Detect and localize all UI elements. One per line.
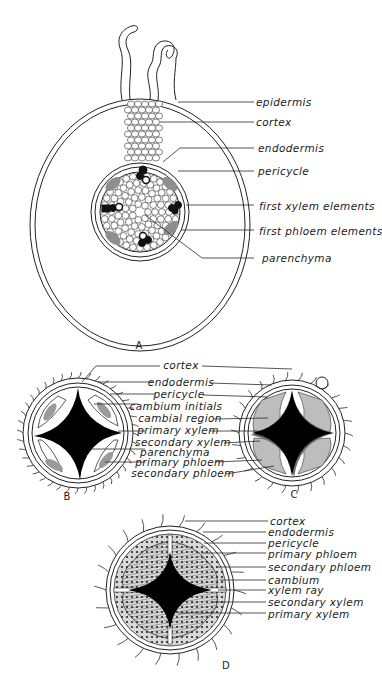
parenchyma-cell — [150, 202, 157, 209]
parenchyma-cell — [157, 179, 164, 186]
cortex-cell — [145, 107, 152, 113]
cortex-cell — [141, 113, 148, 119]
parenchyma-cell — [130, 244, 137, 251]
panel-letter-c: C — [291, 489, 298, 500]
cortex-cell — [148, 101, 155, 107]
surface-spine — [135, 648, 143, 657]
parenchyma-cell — [129, 212, 136, 219]
surface-spine — [61, 374, 63, 381]
parenchyma-cell — [150, 175, 157, 182]
surface-spine — [273, 375, 274, 383]
panel-d: D cortex endodermis pericycle primary ph… — [94, 514, 371, 671]
label-endodermis: endodermis — [258, 142, 324, 154]
c-bulge — [316, 377, 328, 389]
parenchyma-cell — [103, 222, 110, 229]
surface-spine — [21, 411, 26, 416]
parenchyma-cell — [126, 181, 133, 188]
surface-spine — [94, 586, 106, 590]
surface-spine — [212, 535, 223, 542]
cortex-cell — [138, 131, 145, 137]
surface-spine — [322, 477, 324, 485]
root-hair — [148, 41, 174, 100]
label-parenchyma: parenchyma — [261, 252, 332, 264]
parenchyma-cell — [131, 195, 138, 202]
surface-spine — [343, 420, 351, 421]
surface-spine — [260, 381, 262, 389]
cortex-cell — [127, 125, 134, 131]
xylem-pole-bottom — [139, 233, 152, 247]
label-secondary-phloem-d: secondary phloem — [268, 561, 372, 573]
cortex-cell — [155, 101, 162, 107]
surface-spine — [45, 382, 47, 389]
parenchyma-cell — [145, 221, 152, 228]
cortex-cell — [127, 137, 134, 143]
surface-spine — [231, 430, 239, 433]
label-pericycle: pericycle — [257, 165, 309, 177]
panel-b: B — [17, 372, 139, 502]
surface-spine — [95, 376, 100, 381]
cortex-cell — [131, 155, 138, 161]
surface-spine — [25, 403, 29, 408]
cortex-cell — [145, 131, 152, 137]
label-primary-phloem-d: primary phloem — [267, 548, 357, 560]
parenchyma-cell — [158, 189, 165, 196]
parenchyma-cell — [170, 195, 177, 202]
cortex-cell — [124, 119, 131, 125]
cortex-cell — [152, 131, 159, 137]
cortex-cell — [152, 119, 159, 125]
surface-spine — [56, 485, 61, 490]
parenchyma-cell — [128, 229, 135, 236]
label-primary-xylem-d: primary xylem — [267, 608, 350, 620]
surface-spine — [94, 485, 96, 492]
surface-spine — [161, 514, 163, 526]
surface-spine — [286, 372, 288, 380]
panel-letter-d: D — [222, 660, 230, 671]
surface-spine — [332, 468, 336, 476]
parenchyma-cell — [162, 234, 169, 241]
root-hair — [119, 26, 138, 100]
cortex-cell — [141, 125, 148, 131]
cortex-cell — [148, 113, 155, 119]
cortex-cell — [134, 137, 141, 143]
surface-spine — [298, 373, 302, 380]
surface-spine — [104, 625, 116, 628]
parenchyma-cell — [103, 195, 110, 202]
parenchyma-cell — [130, 173, 137, 180]
parenchyma-cell — [135, 201, 142, 208]
surface-spine — [98, 565, 108, 572]
surface-spine — [40, 477, 46, 480]
label-xylem-ray-d: xylem ray — [267, 584, 324, 596]
cortex-cell — [145, 143, 152, 149]
parenchyma-cell — [165, 216, 172, 223]
panel-c: C — [231, 372, 353, 500]
panel-a: epidermis cortex endodermis pericycle fi… — [30, 26, 382, 351]
cortex-cell — [127, 113, 134, 119]
surface-spine — [212, 638, 217, 649]
label-epidermis: epidermis — [256, 96, 312, 108]
parenchyma-cell — [153, 232, 160, 239]
cortex-cell — [138, 155, 145, 161]
root-anatomy-diagram: epidermis cortex endodermis pericycle fi… — [0, 0, 382, 684]
surface-spine — [197, 523, 205, 532]
cortex-cell — [148, 149, 155, 155]
surface-spine — [103, 482, 104, 489]
parenchyma-cell — [152, 209, 159, 216]
label-secondary-phloem-bc: secondary phloem — [131, 467, 235, 479]
surface-spine — [231, 608, 241, 615]
surface-spine — [17, 430, 23, 433]
label-cortex-bc: cortex — [163, 359, 199, 371]
surface-spine — [237, 458, 245, 459]
cortex-cell — [138, 143, 145, 149]
surface-spine — [179, 515, 184, 526]
cortex-cell — [141, 137, 148, 143]
panel-letter-a: A — [136, 340, 143, 351]
surface-spine — [130, 450, 135, 455]
parenchyma-cell — [154, 222, 161, 229]
parenchyma-cell — [125, 219, 132, 226]
parenchyma-cell — [157, 216, 164, 223]
parenchyma-cell — [117, 219, 124, 226]
surface-spine — [155, 653, 160, 664]
surface-spine — [31, 395, 34, 401]
parenchyma-cell — [111, 222, 118, 229]
label-pericycle-bc: pericycle — [152, 388, 204, 400]
